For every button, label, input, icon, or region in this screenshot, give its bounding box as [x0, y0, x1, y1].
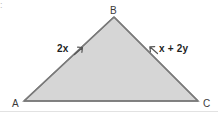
side-label-bc: x + 2y — [159, 44, 188, 54]
diagram-canvas: : B A C 2x x + 2y — [0, 0, 218, 114]
vertex-label-a: A — [12, 99, 19, 109]
vertex-label-c: C — [203, 99, 210, 109]
triangle-polygon — [24, 17, 198, 101]
triangle-figure — [0, 0, 218, 114]
side-label-ab: 2x — [57, 44, 69, 54]
vertex-label-b: B — [110, 6, 117, 16]
tick-bc-icon — [150, 47, 158, 54]
bottom-divider — [0, 111, 218, 112]
